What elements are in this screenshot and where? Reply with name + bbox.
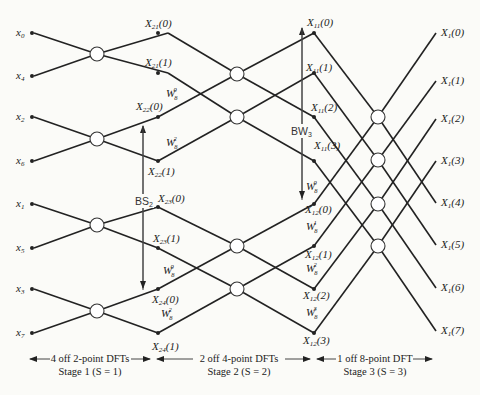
svg-text:X1(5): X1(5) — [440, 238, 464, 252]
svg-text:x2: x2 — [15, 110, 25, 124]
stage3-wires — [314, 33, 436, 333]
svg-text:X12(1): X12(1) — [304, 248, 332, 262]
svg-text:W82: W82 — [161, 306, 173, 321]
svg-text:X23(0): X23(0) — [157, 192, 185, 206]
svg-text:X21(0): X21(0) — [144, 17, 172, 31]
svg-text:X1(0): X1(0) — [440, 26, 464, 40]
svg-text:X22(1): X22(1) — [147, 165, 175, 179]
stage1-subtitle: Stage 1 (S = 1) — [58, 366, 122, 378]
svg-text:x7: x7 — [15, 326, 25, 340]
fft-butterfly-diagram: BS2 BW3 x0 x4 x2 x6 x1 x5 x3 x7 X21(0) X… — [0, 0, 480, 395]
svg-text:W80: W80 — [306, 179, 318, 194]
svg-text:X22(0): X22(0) — [135, 100, 163, 114]
svg-text:X12(3): X12(3) — [302, 334, 330, 348]
svg-text:x4: x4 — [15, 69, 25, 83]
svg-text:X1(4): X1(4) — [440, 196, 464, 210]
svg-text:X11(3): X11(3) — [313, 139, 340, 153]
svg-text:x3: x3 — [15, 282, 25, 296]
svg-text:X11(0): X11(0) — [306, 16, 333, 30]
svg-text:W83: W83 — [306, 305, 318, 320]
stage2-subtitle: Stage 2 (S = 2) — [207, 366, 271, 378]
stage3-title: 1 off 8-point DFT — [337, 353, 413, 364]
svg-text:X23(1): X23(1) — [152, 232, 180, 246]
input-labels: x0 x4 x2 x6 x1 x5 x3 x7 — [15, 26, 25, 340]
svg-text:X1(7): X1(7) — [440, 324, 464, 338]
stage1-wires — [34, 33, 168, 333]
svg-text:X12(2): X12(2) — [302, 289, 330, 303]
svg-text:x6: x6 — [15, 154, 25, 168]
svg-text:X1(6): X1(6) — [440, 281, 464, 295]
bs2-annotation: BS2 — [134, 126, 154, 290]
svg-text:X1(2): X1(2) — [440, 112, 464, 126]
stage-captions: 4 off 2-point DFTs Stage 1 (S = 1) 2 off… — [30, 353, 432, 378]
svg-text:X11(2): X11(2) — [310, 101, 337, 115]
svg-text:x0: x0 — [15, 26, 25, 40]
stage2-title: 2 off 4-point DFTs — [200, 353, 279, 364]
svg-text:X24(1): X24(1) — [151, 340, 179, 354]
bw3-annotation: BW3 — [290, 28, 314, 200]
svg-text:X1(3): X1(3) — [440, 154, 464, 168]
svg-text:W81: W81 — [306, 219, 318, 234]
stage1-title: 4 off 2-point DFTs — [51, 353, 130, 364]
butterfly-nodes — [90, 47, 385, 318]
output-labels: X1(0) X1(1) X1(2) X1(3) X1(4) X1(5) X1(6… — [440, 26, 464, 338]
svg-text:X11(1): X11(1) — [305, 61, 332, 75]
svg-text:W80: W80 — [166, 86, 178, 101]
svg-text:X12(0): X12(0) — [304, 203, 332, 217]
stage1-output-labels: X21(0) X21(1) X22(0) X22(1) X23(0) X23(1… — [135, 17, 185, 354]
svg-text:W82: W82 — [166, 135, 178, 150]
svg-text:X21(1): X21(1) — [144, 56, 172, 70]
svg-text:W80: W80 — [163, 263, 175, 278]
stage3-subtitle: Stage 3 (S = 3) — [343, 366, 407, 378]
svg-text:X24(0): X24(0) — [151, 293, 179, 307]
svg-text:X1(1): X1(1) — [440, 74, 464, 88]
svg-text:x5: x5 — [15, 241, 25, 255]
svg-text:W82: W82 — [306, 261, 318, 276]
svg-text:x1: x1 — [15, 197, 24, 211]
